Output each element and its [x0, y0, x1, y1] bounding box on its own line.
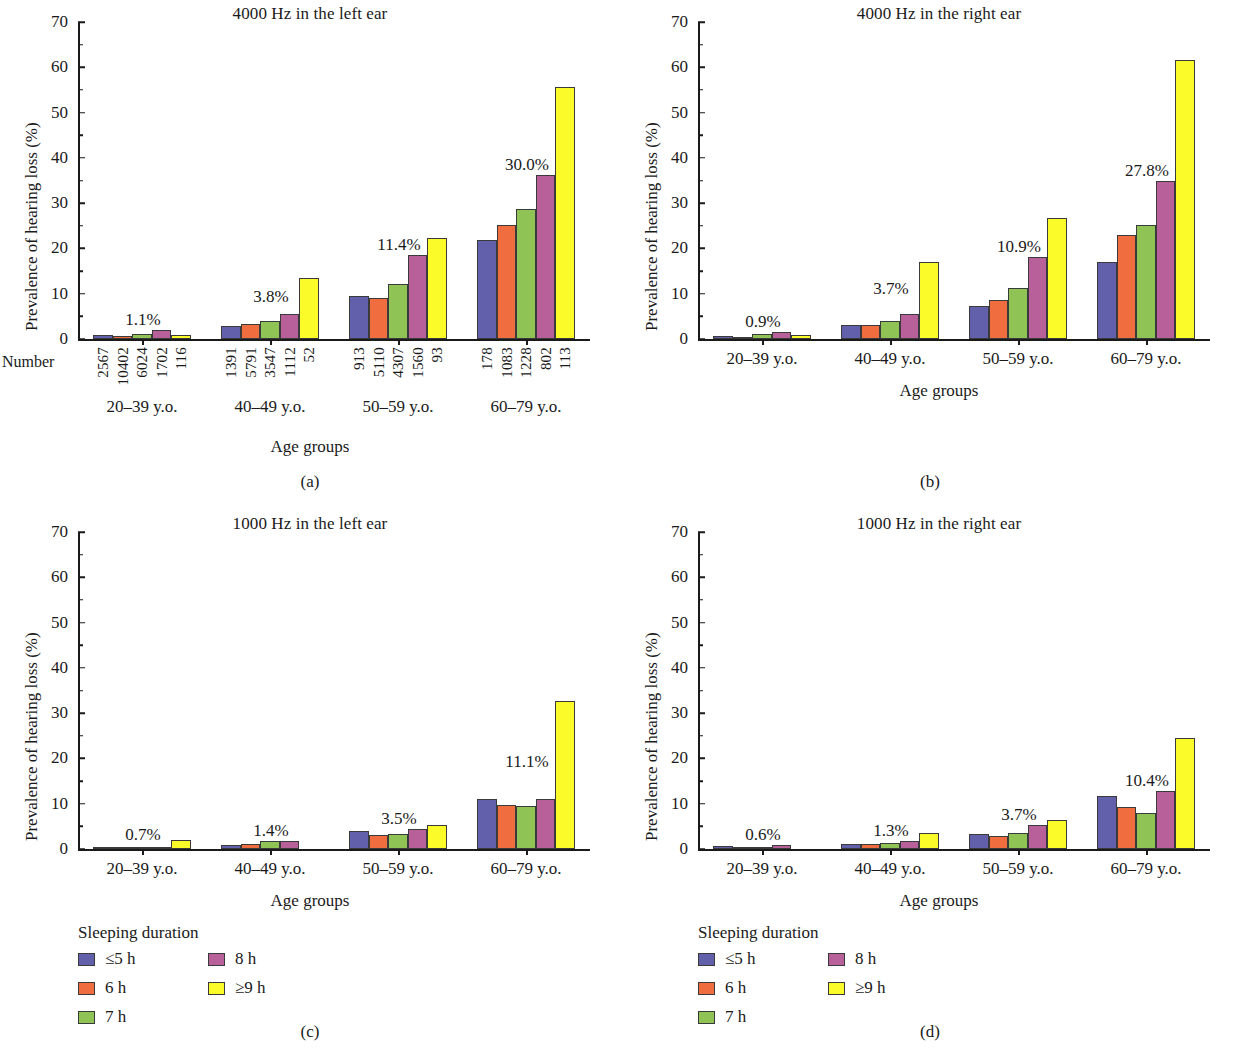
number-value: 802: [538, 347, 555, 370]
bar: [477, 799, 497, 849]
bar: [516, 806, 536, 849]
legend-item: 6 h: [78, 978, 126, 998]
x-category-label: 20–39 y.o.: [106, 859, 177, 879]
percent-annotation: 3.5%: [381, 809, 416, 829]
panel-title: 4000 Hz in the left ear: [0, 4, 620, 24]
x-category-label: 40–49 y.o.: [854, 349, 925, 369]
percent-annotation: 1.3%: [873, 821, 908, 841]
legend-label: ≤5 h: [105, 949, 136, 969]
percent-annotation: 1.1%: [125, 310, 160, 330]
x-category-label: 20–39 y.o.: [106, 397, 177, 417]
legend-swatch-1: [78, 982, 95, 995]
percent-annotation: 10.4%: [1125, 771, 1169, 791]
y-tick-label: 60: [654, 57, 688, 77]
x-category-label: 20–39 y.o.: [726, 859, 797, 879]
percent-annotation: 3.7%: [873, 279, 908, 299]
legend-item: ≤5 h: [78, 949, 136, 969]
x-tick-mark: [270, 339, 272, 345]
panel-title: 1000 Hz in the left ear: [0, 514, 620, 534]
legend-swatch-4: [208, 982, 225, 995]
number-value: 1560: [410, 347, 427, 378]
x-category-label: 60–79 y.o.: [490, 859, 561, 879]
number-value: 3547: [262, 347, 279, 378]
plot-area: [78, 22, 590, 339]
bar: [1156, 791, 1176, 849]
x-axis-label: Age groups: [620, 891, 1240, 911]
y-tick-label: 40: [34, 658, 68, 678]
legend-swatch-3: [208, 953, 225, 966]
bar: [1156, 181, 1176, 340]
percent-annotation: 1.4%: [253, 821, 288, 841]
x-tick-mark: [762, 849, 764, 855]
number-value: 1083: [499, 347, 516, 378]
legend-swatch-1: [698, 982, 715, 995]
y-tick-label: 60: [34, 567, 68, 587]
number-value: 93: [429, 347, 446, 362]
legend-item: 8 h: [208, 949, 256, 969]
number-value: 1112: [282, 347, 299, 377]
x-category-label: 40–49 y.o.: [234, 397, 305, 417]
y-tick-label: 60: [34, 57, 68, 77]
x-tick-mark: [526, 339, 528, 345]
y-tick-label: 30: [654, 193, 688, 213]
legend-item: 8 h: [828, 949, 876, 969]
bar: [1175, 60, 1195, 339]
bar: [1117, 235, 1137, 339]
x-tick-mark: [762, 339, 764, 345]
y-tick-label: 40: [654, 148, 688, 168]
x-category-label: 60–79 y.o.: [1110, 349, 1181, 369]
bar: [555, 701, 575, 849]
legend-label: 6 h: [725, 978, 746, 998]
panel-title: 1000 Hz in the right ear: [620, 514, 1240, 534]
x-tick-mark: [890, 339, 892, 345]
legend-label: ≤5 h: [725, 949, 756, 969]
percent-annotation: 0.7%: [125, 825, 160, 845]
y-tick-label: 70: [34, 12, 68, 32]
number-value: 1228: [518, 347, 535, 378]
percent-annotation: 30.0%: [505, 155, 549, 175]
number-value: 4307: [390, 347, 407, 378]
number-value: 6024: [134, 347, 151, 378]
bar: [536, 799, 556, 849]
legend-title: Sleeping duration: [78, 923, 198, 943]
y-tick-label: 0: [654, 329, 688, 349]
number-value: 10402: [115, 347, 132, 386]
x-axis-line: [698, 849, 1210, 851]
y-tick-label: 20: [34, 238, 68, 258]
number-value: 2567: [95, 347, 112, 378]
x-tick-mark: [890, 849, 892, 855]
bar-group: [78, 22, 590, 339]
percent-annotation: 3.7%: [1001, 805, 1036, 825]
number-value: 5110: [371, 347, 388, 377]
number-value: 113: [557, 347, 574, 370]
bar: [536, 175, 556, 339]
x-axis-line: [78, 849, 590, 851]
panel-letter: (d): [620, 1022, 1240, 1042]
number-value: 1391: [223, 347, 240, 378]
legend-label: ≥9 h: [855, 978, 886, 998]
panel-letter: (c): [0, 1022, 620, 1042]
x-axis-line: [698, 339, 1210, 341]
x-category-label: 50–59 y.o.: [362, 859, 433, 879]
percent-annotation: 27.8%: [1125, 161, 1169, 181]
x-category-label: 60–79 y.o.: [490, 397, 561, 417]
y-tick-label: 0: [654, 839, 688, 859]
y-tick-label: 50: [34, 613, 68, 633]
y-tick-label: 70: [654, 12, 688, 32]
bar: [477, 240, 497, 339]
y-tick-label: 50: [34, 103, 68, 123]
bar: [1136, 225, 1156, 339]
legend-item: ≥9 h: [828, 978, 886, 998]
x-axis-label: Age groups: [620, 381, 1240, 401]
x-category-label: 20–39 y.o.: [726, 349, 797, 369]
x-tick-mark: [1018, 849, 1020, 855]
x-axis-label: Age groups: [0, 437, 620, 457]
number-value: 5791: [243, 347, 260, 378]
legend-swatch-4: [828, 982, 845, 995]
number-value: 1702: [154, 347, 171, 378]
x-tick-mark: [1146, 849, 1148, 855]
percent-annotation: 10.9%: [997, 237, 1041, 257]
bar: [497, 225, 517, 339]
panel-title: 4000 Hz in the right ear: [620, 4, 1240, 24]
bar-group: [78, 532, 590, 849]
